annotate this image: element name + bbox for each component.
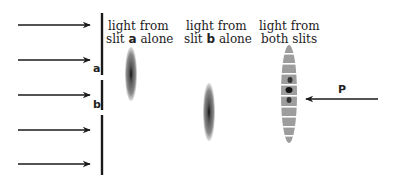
caption-both-line1: light from bbox=[259, 19, 320, 33]
slit-a-label: a bbox=[93, 62, 100, 75]
fringe-secondary-max bbox=[288, 77, 293, 83]
caption-slit-a-line1: light from bbox=[108, 19, 169, 33]
fringe-secondary-max-2 bbox=[287, 97, 292, 103]
pattern-slit-b bbox=[203, 83, 215, 141]
pattern-slit-a bbox=[125, 47, 137, 101]
interference-fringes bbox=[278, 45, 300, 143]
incident-light-arrows bbox=[18, 25, 90, 164]
caption-slit-b-line1: light from bbox=[186, 19, 247, 33]
pointer-label: P bbox=[338, 83, 346, 96]
caption-both-line2: both slits bbox=[261, 32, 317, 46]
double-slit-diagram: a b light from slit a alone light from s… bbox=[0, 0, 396, 184]
pointer-p: P bbox=[306, 83, 378, 99]
fringe-central-max bbox=[286, 87, 293, 93]
caption-slit-b-line2: slit b alone bbox=[184, 32, 252, 46]
slit-b-label: b bbox=[93, 98, 101, 111]
caption-slit-a-line2: slit a alone bbox=[106, 32, 173, 46]
fringe-envelope bbox=[281, 45, 297, 143]
